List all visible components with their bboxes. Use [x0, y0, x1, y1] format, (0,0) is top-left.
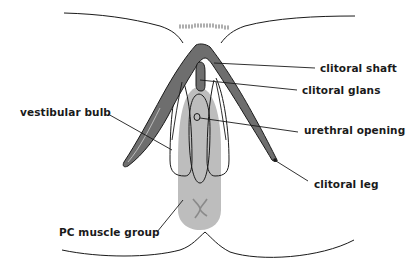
- anatomy-diagram: clitoral shaft clitoral glans vestibular…: [0, 0, 418, 270]
- label-urethral-opening: urethral opening: [304, 124, 405, 136]
- label-vestibular-bulb: vestibular bulb: [20, 106, 111, 118]
- label-pc-muscle-group: PC muscle group: [59, 226, 160, 238]
- hair-marks: [180, 24, 228, 29]
- label-clitoral-glans: clitoral glans: [302, 84, 381, 96]
- label-clitoral-leg: clitoral leg: [314, 178, 379, 190]
- upper-left-contour: [64, 13, 183, 43]
- label-clitoral-shaft: clitoral shaft: [320, 62, 397, 74]
- leader-clitoral-shaft: [214, 63, 315, 68]
- upper-right-contour: [221, 16, 355, 43]
- clitoral-glans-shape: [196, 62, 205, 91]
- leader-clitoral-leg: [276, 161, 308, 181]
- leader-clitoral-glans: [200, 80, 297, 90]
